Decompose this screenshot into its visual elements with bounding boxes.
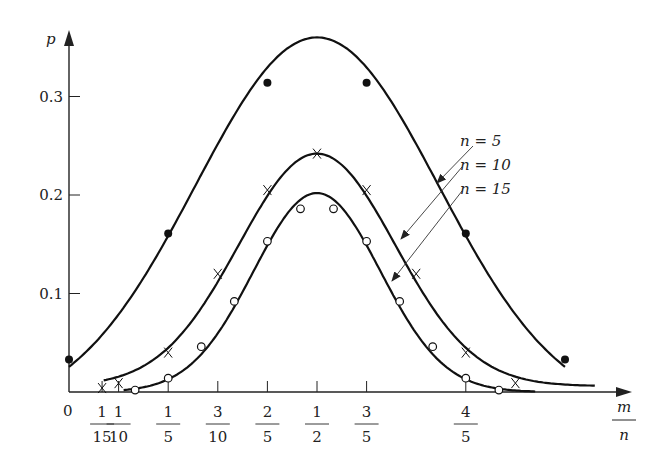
- svg-text:m: m: [617, 398, 631, 416]
- label-n15: n = 15: [460, 180, 511, 198]
- x-tick-label: 15: [156, 403, 180, 446]
- svg-text:3: 3: [213, 403, 223, 421]
- point-open-circle-icon: [462, 374, 470, 382]
- point-cross-icon: [214, 269, 222, 279]
- markers: [65, 79, 569, 394]
- svg-text:n: n: [619, 426, 629, 444]
- point-open-circle-icon: [297, 205, 305, 213]
- svg-text:1: 1: [312, 403, 322, 421]
- svg-text:10: 10: [109, 428, 128, 446]
- svg-text:5: 5: [163, 428, 173, 446]
- point-open-circle-icon: [429, 343, 437, 351]
- x-ticks: 1151101531025123545: [90, 381, 478, 446]
- point-open-circle-icon: [396, 298, 404, 306]
- curves: [69, 37, 595, 391]
- curve-n10: [104, 154, 595, 386]
- point-filled-circle-icon: [363, 79, 371, 87]
- label-n10: n = 10: [460, 156, 511, 174]
- point-open-circle-icon: [131, 386, 139, 394]
- origin-label: 0: [63, 402, 73, 420]
- svg-text:5: 5: [362, 428, 372, 446]
- svg-text:5: 5: [263, 428, 273, 446]
- x-tick-label: 45: [454, 403, 478, 446]
- x-axis-label: m n: [612, 398, 636, 444]
- y-ticks: 0.10.20.3: [39, 88, 80, 303]
- binomial-distribution-chart: 0.10.20.3 1151101531025123545 p 0 m n n …: [0, 0, 671, 464]
- y-tick-label: 0.1: [39, 285, 63, 303]
- x-tick-label: 12: [305, 403, 329, 446]
- point-filled-circle-icon: [462, 229, 470, 237]
- x-tick-label: 25: [255, 403, 279, 446]
- point-filled-circle-icon: [164, 229, 172, 237]
- point-cross-icon: [511, 378, 519, 388]
- svg-text:1: 1: [97, 403, 107, 421]
- point-open-circle-icon: [264, 237, 272, 245]
- curve-n15: [124, 193, 536, 392]
- svg-text:3: 3: [362, 403, 372, 421]
- point-filled-circle-icon: [561, 355, 569, 363]
- axes: [64, 30, 632, 397]
- svg-text:5: 5: [461, 428, 471, 446]
- svg-text:1: 1: [114, 403, 124, 421]
- point-filled-circle-icon: [263, 79, 271, 87]
- svg-text:10: 10: [208, 428, 227, 446]
- y-axis-label: p: [46, 30, 56, 48]
- x-axis-arrow-icon: [616, 387, 632, 397]
- point-open-circle-icon: [231, 298, 239, 306]
- svg-text:4: 4: [461, 403, 471, 421]
- svg-text:1: 1: [163, 403, 173, 421]
- label-n5: n = 5: [460, 132, 501, 150]
- x-tick-label: 310: [206, 403, 230, 446]
- x-tick-label: 110: [107, 403, 131, 446]
- point-open-circle-icon: [164, 374, 172, 382]
- point-filled-circle-icon: [65, 355, 73, 363]
- point-open-circle-icon: [197, 343, 205, 351]
- point-open-circle-icon: [495, 386, 503, 394]
- point-cross-icon: [412, 269, 420, 279]
- y-tick-label: 0.3: [39, 88, 63, 106]
- arrow-n15: [392, 191, 462, 281]
- svg-text:2: 2: [312, 428, 322, 446]
- curve-n5: [69, 37, 565, 366]
- y-tick-label: 0.2: [39, 186, 63, 204]
- y-axis-arrow-icon: [64, 30, 74, 46]
- legend-annotations: n = 5 n = 10 n = 15: [392, 132, 511, 281]
- point-open-circle-icon: [330, 205, 338, 213]
- svg-text:2: 2: [263, 403, 273, 421]
- point-open-circle-icon: [363, 237, 371, 245]
- x-tick-label: 35: [355, 403, 379, 446]
